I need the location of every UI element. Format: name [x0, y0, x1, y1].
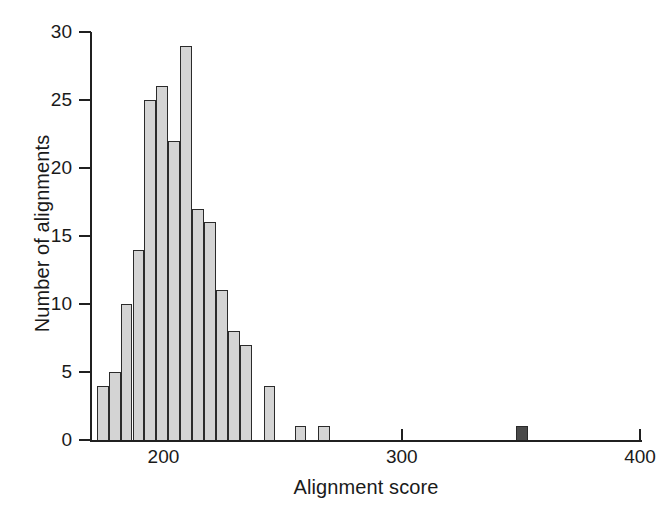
y-axis-ticks: 051015202530	[0, 0, 662, 513]
histogram-bar	[97, 386, 109, 441]
histogram-figure: Number of alignments Alignment score 051…	[0, 0, 662, 513]
y-tick-label: 0	[26, 429, 72, 451]
x-tick-mark	[401, 429, 403, 440]
x-axis-line	[90, 440, 642, 442]
histogram-bar	[156, 86, 168, 441]
histogram-bar	[121, 304, 133, 441]
histogram-bar	[204, 222, 216, 441]
x-tick-label: 400	[605, 446, 662, 468]
x-axis-ticks: 200300400	[0, 0, 662, 513]
histogram-bar	[144, 100, 156, 441]
histogram-bar	[295, 426, 307, 441]
histogram-bar	[109, 372, 121, 441]
histogram-bar-highlight	[516, 426, 528, 441]
x-axis-label: Alignment score	[90, 476, 642, 499]
histogram-bar	[180, 46, 192, 441]
histogram-bar	[240, 345, 252, 441]
x-tick-mark	[639, 429, 641, 440]
histogram-bar	[168, 141, 180, 441]
y-axis-label: Number of alignments	[31, 74, 54, 394]
x-tick-mark	[162, 429, 164, 440]
y-tick-label: 30	[26, 21, 72, 43]
histogram-bar	[264, 386, 276, 441]
histogram-bars	[0, 0, 662, 513]
histogram-bar	[192, 209, 204, 441]
x-tick-label: 200	[128, 446, 198, 468]
histogram-bar	[133, 250, 145, 441]
histogram-bar	[228, 331, 240, 441]
x-tick-label: 300	[367, 446, 437, 468]
histogram-bar	[318, 426, 330, 441]
y-axis-line	[90, 32, 92, 442]
histogram-bar	[216, 290, 228, 441]
